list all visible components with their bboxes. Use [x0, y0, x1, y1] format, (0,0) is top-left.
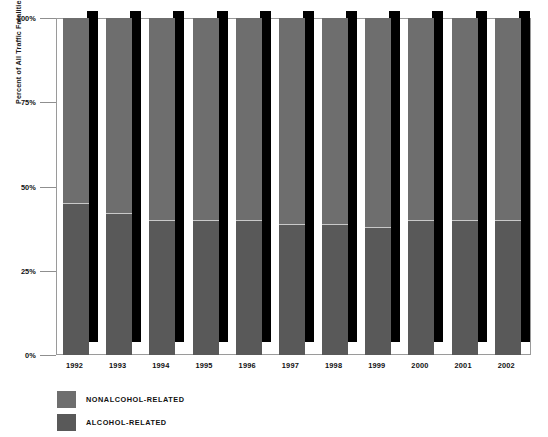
- bar-segment-alcohol[interactable]: [365, 227, 391, 355]
- bar-segment-nonalcohol[interactable]: [63, 18, 89, 203]
- bar-segment-nonalcohol[interactable]: [322, 18, 348, 224]
- y-tick-mark: [40, 187, 56, 188]
- stacked-bar[interactable]: [193, 18, 219, 355]
- stacked-bar[interactable]: [106, 18, 132, 355]
- stacked-bar[interactable]: [365, 18, 391, 355]
- bar-column: [186, 0, 229, 370]
- bar-column: [99, 0, 142, 370]
- y-tick-mark: [40, 102, 56, 103]
- bar-segment-alcohol[interactable]: [279, 224, 305, 355]
- legend-label: NONALCOHOL-RELATED: [86, 395, 185, 404]
- chart-canvas: Percent of All Traffic Fatalities 100%75…: [0, 0, 548, 437]
- x-tick-label: 1992: [56, 361, 93, 370]
- bar-segment-alcohol[interactable]: [63, 203, 89, 355]
- legend-item[interactable]: NONALCOHOL-RELATED: [57, 389, 185, 409]
- x-tick-label: 1997: [272, 361, 309, 370]
- bar-segment-alcohol[interactable]: [452, 220, 478, 355]
- stacked-bar[interactable]: [279, 18, 305, 355]
- x-tick-label: 1994: [142, 361, 179, 370]
- bar-segment-nonalcohol[interactable]: [106, 18, 132, 213]
- stacked-bar[interactable]: [322, 18, 348, 355]
- bar-segment-alcohol[interactable]: [106, 213, 132, 355]
- legend-swatch: [57, 391, 76, 408]
- x-tick-label: 2002: [488, 361, 525, 370]
- y-tick-label: 25%: [0, 267, 36, 276]
- x-tick-label: 2000: [401, 361, 438, 370]
- stacked-bar[interactable]: [149, 18, 175, 355]
- bar-column: [401, 0, 444, 370]
- y-tick-label: 50%: [0, 183, 36, 192]
- x-tick-label: 1995: [186, 361, 223, 370]
- bar-group: [56, 0, 531, 370]
- x-tick-label: 2001: [445, 361, 482, 370]
- bar-segment-alcohol[interactable]: [322, 224, 348, 355]
- bar-column: [445, 0, 488, 370]
- bar-column: [488, 0, 531, 370]
- stacked-bar[interactable]: [495, 18, 521, 355]
- bar-segment-nonalcohol[interactable]: [408, 18, 434, 220]
- y-tick-mark: [40, 18, 56, 19]
- stacked-bar[interactable]: [452, 18, 478, 355]
- legend-item[interactable]: ALCOHOL-RELATED: [57, 412, 185, 432]
- bar-segment-alcohol[interactable]: [149, 220, 175, 355]
- bar-segment-alcohol[interactable]: [495, 220, 521, 355]
- bar-segment-nonalcohol[interactable]: [149, 18, 175, 220]
- bar-column: [142, 0, 185, 370]
- bar-segment-nonalcohol[interactable]: [452, 18, 478, 220]
- stacked-bar[interactable]: [236, 18, 262, 355]
- bar-segment-nonalcohol[interactable]: [193, 18, 219, 220]
- y-tick-label: 100%: [0, 14, 36, 23]
- bar-segment-alcohol[interactable]: [236, 220, 262, 355]
- bar-segment-nonalcohol[interactable]: [279, 18, 305, 224]
- y-tick-mark: [40, 271, 56, 272]
- stacked-bar[interactable]: [408, 18, 434, 355]
- y-tick-label: 75%: [0, 98, 36, 107]
- x-tick-label: 1998: [315, 361, 352, 370]
- x-tick-label: 1999: [358, 361, 395, 370]
- y-tick-mark: [40, 355, 56, 356]
- y-tick-label: 0%: [0, 351, 36, 360]
- legend-label: ALCOHOL-RELATED: [86, 418, 167, 427]
- stacked-bar[interactable]: [63, 18, 89, 355]
- bar-segment-nonalcohol[interactable]: [495, 18, 521, 220]
- bar-column: [229, 0, 272, 370]
- bar-segment-alcohol[interactable]: [193, 220, 219, 355]
- bar-column: [272, 0, 315, 370]
- bar-column: [56, 0, 99, 370]
- chart-legend: NONALCOHOL-RELATEDALCOHOL-RELATED: [57, 389, 185, 435]
- bar-segment-nonalcohol[interactable]: [365, 18, 391, 227]
- x-tick-label: 1996: [229, 361, 266, 370]
- bar-column: [315, 0, 358, 370]
- legend-swatch: [57, 414, 76, 431]
- bar-segment-alcohol[interactable]: [408, 220, 434, 355]
- bar-column: [358, 0, 401, 370]
- x-tick-label: 1993: [99, 361, 136, 370]
- bar-segment-nonalcohol[interactable]: [236, 18, 262, 220]
